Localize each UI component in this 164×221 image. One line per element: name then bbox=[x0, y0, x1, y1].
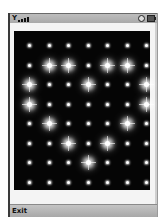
bright-dot bbox=[66, 141, 71, 146]
grid-cell bbox=[98, 173, 118, 193]
antenna-glyph: Y bbox=[12, 15, 17, 22]
grid-cell bbox=[40, 56, 60, 76]
dim-dot bbox=[87, 181, 90, 184]
grid-cell bbox=[40, 153, 60, 173]
grid-cell bbox=[59, 173, 79, 193]
grid-cell bbox=[20, 36, 40, 56]
dim-dot bbox=[126, 103, 129, 106]
dim-dot bbox=[87, 44, 90, 47]
dim-dot bbox=[145, 122, 148, 125]
dim-dot bbox=[106, 161, 109, 164]
bright-dot bbox=[125, 121, 130, 126]
dim-dot bbox=[106, 181, 109, 184]
exit-soft-key[interactable]: Exit bbox=[12, 207, 27, 215]
grid-cell bbox=[20, 95, 40, 115]
bright-dot bbox=[47, 121, 52, 126]
dim-dot bbox=[145, 44, 148, 47]
grid-cell bbox=[98, 134, 118, 154]
antenna-signal-icon: Y bbox=[12, 15, 29, 22]
dim-dot bbox=[87, 122, 90, 125]
dim-dot bbox=[48, 83, 51, 86]
grid-cell bbox=[118, 36, 138, 56]
dim-dot bbox=[126, 161, 129, 164]
grid-cell bbox=[118, 153, 138, 173]
bright-dot bbox=[86, 82, 91, 87]
dim-dot bbox=[145, 64, 148, 67]
signal-bar bbox=[21, 19, 23, 22]
grid-cell bbox=[118, 114, 138, 134]
grid-cell bbox=[98, 56, 118, 76]
grid-cell bbox=[118, 75, 138, 95]
bright-dot bbox=[105, 141, 110, 146]
grid-cell bbox=[79, 134, 99, 154]
dim-dot bbox=[145, 142, 148, 145]
signal-bar bbox=[24, 18, 26, 22]
dim-dot bbox=[28, 181, 31, 184]
grid-cell bbox=[137, 95, 157, 115]
grid-cell bbox=[40, 114, 60, 134]
dim-dot bbox=[28, 142, 31, 145]
grid-cell bbox=[59, 36, 79, 56]
bright-dot bbox=[125, 63, 130, 68]
bright-dot bbox=[66, 63, 71, 68]
dim-dot bbox=[48, 44, 51, 47]
grid-cell bbox=[137, 153, 157, 173]
dim-dot bbox=[28, 44, 31, 47]
dim-dot bbox=[28, 161, 31, 164]
bright-dot bbox=[27, 102, 32, 107]
soft-key-bar: Exit bbox=[10, 204, 157, 217]
grid-cell bbox=[40, 75, 60, 95]
grid-cell bbox=[59, 56, 79, 76]
grid-cell bbox=[137, 36, 157, 56]
grid-cell bbox=[118, 95, 138, 115]
grid-cell bbox=[118, 56, 138, 76]
dim-dot bbox=[126, 142, 129, 145]
dim-dot bbox=[28, 122, 31, 125]
bright-dot bbox=[144, 82, 149, 87]
bright-dot bbox=[105, 63, 110, 68]
dim-dot bbox=[106, 103, 109, 106]
grid-cell bbox=[79, 36, 99, 56]
dim-dot bbox=[87, 103, 90, 106]
grid-cell bbox=[118, 173, 138, 193]
grid-cell bbox=[40, 36, 60, 56]
grid-cell bbox=[40, 134, 60, 154]
grid-cell bbox=[20, 134, 40, 154]
dim-dot bbox=[145, 181, 148, 184]
grid-cell bbox=[137, 56, 157, 76]
dim-dot bbox=[67, 122, 70, 125]
dim-dot bbox=[28, 64, 31, 67]
grid-cell bbox=[20, 114, 40, 134]
dot-grid bbox=[20, 36, 157, 192]
grid-cell bbox=[59, 114, 79, 134]
grid-cell bbox=[98, 153, 118, 173]
dim-dot bbox=[87, 64, 90, 67]
grid-cell bbox=[118, 134, 138, 154]
signal-bar bbox=[18, 20, 20, 22]
dim-dot bbox=[67, 44, 70, 47]
grid-cell bbox=[137, 134, 157, 154]
content-area bbox=[10, 23, 157, 204]
dot-matrix-display bbox=[14, 31, 150, 190]
grid-cell bbox=[79, 75, 99, 95]
battery-icon bbox=[147, 15, 155, 22]
grid-cell bbox=[79, 114, 99, 134]
status-icons bbox=[138, 15, 155, 22]
grid-cell bbox=[20, 153, 40, 173]
grid-cell bbox=[79, 95, 99, 115]
dim-dot bbox=[126, 44, 129, 47]
grid-cell bbox=[79, 56, 99, 76]
grid-cell bbox=[137, 114, 157, 134]
dim-dot bbox=[67, 181, 70, 184]
dim-dot bbox=[87, 142, 90, 145]
grid-cell bbox=[79, 153, 99, 173]
grid-cell bbox=[98, 36, 118, 56]
dim-dot bbox=[48, 161, 51, 164]
grid-cell bbox=[137, 173, 157, 193]
bright-dot bbox=[47, 63, 52, 68]
dim-dot bbox=[67, 161, 70, 164]
grid-cell bbox=[137, 75, 157, 95]
grid-cell bbox=[20, 56, 40, 76]
dim-dot bbox=[48, 142, 51, 145]
bright-dot bbox=[27, 82, 32, 87]
